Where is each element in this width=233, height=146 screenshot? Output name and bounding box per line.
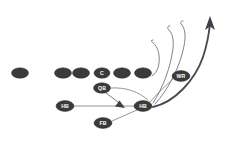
football-play-diagram: C WR QB HB HB FB — [0, 0, 233, 146]
player-label: HB — [61, 103, 69, 109]
route-curl-inner — [151, 40, 159, 76]
player-left-guard[interactable] — [73, 68, 90, 78]
player-label: C — [100, 70, 104, 76]
player-quarterback[interactable]: QB — [94, 83, 111, 93]
player-oval — [73, 68, 90, 78]
player-wide-receiver[interactable]: WR — [172, 71, 190, 82]
player-oval — [12, 68, 29, 78]
player-split-end[interactable] — [12, 68, 29, 78]
player-fullback[interactable]: FB — [94, 118, 112, 129]
player-oval — [114, 68, 131, 78]
route-primary-deep — [153, 24, 210, 107]
route-curl-middle — [153, 26, 173, 103]
qb-pull-line — [111, 88, 148, 100]
player-left-tackle[interactable] — [55, 68, 72, 78]
play-diagram-canvas: C WR QB HB HB FB — [0, 0, 233, 146]
wr-to-hb-motion-line — [150, 79, 173, 102]
player-right-guard[interactable] — [114, 68, 131, 78]
player-label: HB — [139, 103, 147, 109]
player-label: QB — [98, 85, 106, 91]
player-center[interactable]: C — [94, 68, 110, 78]
qb-handoff-arrowhead — [115, 101, 125, 109]
player-oval — [135, 68, 152, 78]
player-halfback-left[interactable]: HB — [56, 101, 74, 112]
player-right-tackle[interactable] — [135, 68, 152, 78]
player-oval — [55, 68, 72, 78]
player-label: FB — [99, 120, 106, 126]
fb-cross-line — [112, 110, 137, 121]
player-label: WR — [177, 73, 186, 79]
player-halfback-mid[interactable]: HB — [134, 101, 152, 112]
